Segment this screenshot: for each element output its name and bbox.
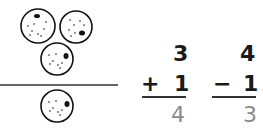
operator-minus: − — [213, 73, 231, 95]
difference-line — [212, 96, 256, 98]
operator-plus: + — [141, 73, 159, 95]
top-number: 4 — [240, 43, 255, 65]
cookie-illustration — [0, 0, 131, 137]
cookie-icon — [60, 11, 92, 43]
operand: 1 — [243, 73, 258, 95]
cookie-icon — [41, 43, 73, 75]
sum-line — [142, 96, 186, 98]
operand: 1 — [174, 73, 189, 95]
answer: 3 — [243, 104, 257, 126]
answer: 4 — [171, 104, 185, 126]
top-number: 3 — [173, 43, 188, 65]
cookie-icon — [21, 9, 55, 43]
